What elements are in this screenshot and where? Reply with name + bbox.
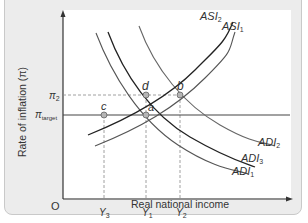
point-b-label: b — [177, 79, 184, 93]
x-axis-label: Real national income — [131, 198, 229, 210]
plot-area — [63, 10, 291, 198]
point-c-label: c — [101, 100, 107, 112]
y-axis-label: Rate of inflation (π) — [16, 67, 28, 157]
pi2-label: π2 — [49, 90, 60, 102]
point-d-label: d — [142, 79, 149, 93]
point-c — [101, 112, 107, 118]
inflation-diagram: c a d b π2 πtarget O Y3 Y1 Y2 Real natio… — [0, 0, 308, 223]
pi-target-label: πtarget — [35, 109, 57, 121]
y3-label: Y3 — [99, 207, 110, 219]
origin-label: O — [51, 200, 60, 212]
point-a-label: a — [148, 101, 154, 113]
